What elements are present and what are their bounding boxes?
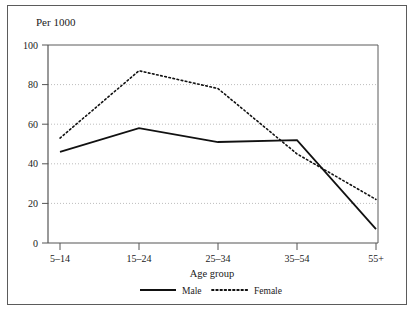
y-tick-label: 20 — [28, 198, 38, 209]
legend: Male Female — [140, 286, 282, 296]
chart-title: Per 1000 — [36, 16, 76, 28]
series-line-male — [60, 128, 376, 229]
x-axis — [48, 243, 378, 250]
y-tick-label: 0 — [33, 238, 38, 249]
series-line-female — [60, 71, 376, 200]
y-axis — [42, 45, 48, 243]
line-chart: 100 80 60 40 20 0 5–14 15–24 25–34 35–54… — [0, 0, 415, 313]
x-tick-label: 5–14 — [50, 253, 70, 264]
x-tick-label: 55+ — [368, 253, 384, 264]
y-tick-label: 40 — [28, 158, 38, 169]
chart-figure: 100 80 60 40 20 0 5–14 15–24 25–34 35–54… — [0, 0, 415, 313]
legend-label-female: Female — [254, 286, 282, 296]
y-tick-label: 80 — [28, 79, 38, 90]
x-tick-label: 35–54 — [285, 253, 310, 264]
y-tick-label: 100 — [23, 40, 38, 51]
x-axis-title: Age group — [190, 268, 235, 279]
plot-area-frame — [48, 45, 378, 243]
legend-label-male: Male — [182, 286, 202, 296]
x-tick-labels: 5–14 15–24 25–34 35–54 55+ — [50, 253, 384, 264]
x-tick-label: 25–34 — [206, 253, 231, 264]
gridlines — [48, 85, 378, 204]
y-tick-label: 60 — [28, 119, 38, 130]
y-tick-labels: 100 80 60 40 20 0 — [23, 40, 38, 249]
x-tick-label: 15–24 — [127, 253, 152, 264]
